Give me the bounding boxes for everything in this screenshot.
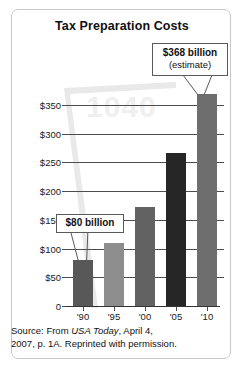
callout-80-amount: $80 billion (59, 217, 121, 229)
xtick-label-2000: '00 (139, 311, 151, 322)
bar-2010 (197, 94, 217, 306)
ytick-label-200: $200 (40, 186, 61, 197)
callout-80-billion: $80 billion (56, 214, 124, 233)
callout-368-amount: $368 billion (155, 47, 225, 59)
plot-area: 1040 0 $50 $100 $150 $200 $250 $300 $350 (66, 88, 220, 307)
ytick-label-300: $300 (40, 129, 61, 140)
x-axis-baseline (66, 306, 220, 307)
ytick-mark-right-100 (220, 249, 224, 250)
ytick-mark-right-250 (220, 162, 224, 163)
source-line2: 2007, p. 1A. Reprinted with permission. (11, 338, 177, 349)
bar-1990 (73, 260, 93, 306)
source-line1-suffix: , April 4, (119, 325, 153, 336)
chart-title: Tax Preparation Costs (12, 19, 231, 33)
ytick-mark-50 (62, 277, 66, 278)
ytick-mark-300 (62, 134, 66, 135)
ytick-mark-200 (62, 191, 66, 192)
ytick-label-0: 0 (56, 301, 61, 312)
ytick-mark-right-350 (220, 105, 224, 106)
xtick-label-2010: '10 (201, 311, 213, 322)
ytick-mark-right-300 (220, 134, 224, 135)
xtick-label-1990: '90 (77, 311, 89, 322)
source-line1-prefix: Source: From (11, 325, 71, 336)
ytick-mark-250 (62, 162, 66, 163)
ytick-label-50: $50 (45, 272, 61, 283)
ytick-label-350: $350 (40, 100, 61, 111)
ytick-mark-right-50 (220, 277, 224, 278)
callout-368-qualifier: (estimate) (155, 59, 225, 71)
bar-2000 (135, 207, 155, 306)
ytick-mark-100 (62, 249, 66, 250)
ytick-label-100: $100 (40, 244, 61, 255)
source-note: Source: From USA Today, April 4, 2007, p… (11, 324, 226, 350)
source-publication: USA Today (71, 325, 118, 336)
ytick-label-250: $250 (40, 157, 61, 168)
ytick-mark-right-200 (220, 191, 224, 192)
xtick-label-1995: '95 (108, 311, 120, 322)
callout-368-billion: $368 billion (estimate) (152, 43, 228, 76)
chart-figure-panel: Tax Preparation Costs 1040 0 $50 (11, 9, 231, 359)
ytick-mark-right-150 (220, 220, 224, 221)
watermark-1040-text: 1040 (86, 90, 157, 124)
xtick-label-2005: '05 (170, 311, 182, 322)
bar-2005 (166, 153, 186, 306)
bar-1995 (104, 243, 124, 306)
ytick-mark-350 (62, 105, 66, 106)
